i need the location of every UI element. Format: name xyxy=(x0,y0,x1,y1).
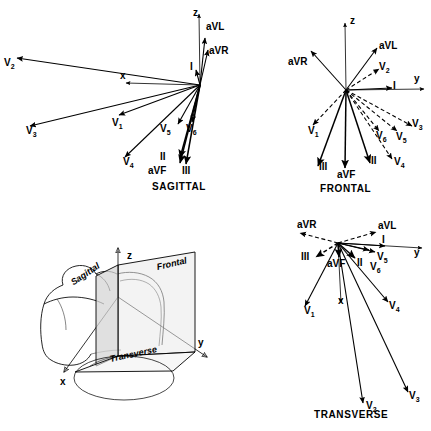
label-text: III xyxy=(319,161,327,172)
label-v1-frontal: V1 xyxy=(308,126,319,138)
label-subscript: 4 xyxy=(401,162,405,169)
label-avr-frontal: aVR xyxy=(288,57,307,67)
label-subscript: 1 xyxy=(119,123,123,130)
label-text: V xyxy=(379,61,386,72)
label-ii-sagittal: II xyxy=(160,152,166,162)
label-v1-sagittal: V1 xyxy=(112,118,123,130)
label-text: V xyxy=(26,125,33,136)
axis-z-sagittal xyxy=(199,14,200,85)
ecg-lead-vector-figure: zxIaVLaVRV2V3V1V4V5V6IIIIIaVFzyIaVLaVRV2… xyxy=(0,0,431,431)
label-text: y xyxy=(198,337,204,348)
label-z-sagittal: z xyxy=(193,8,198,18)
caption-sagittal: SAGITTAL xyxy=(152,182,206,192)
label-x-sagittal: x xyxy=(120,71,126,81)
label-text: V xyxy=(409,390,416,401)
label-v4-transverse: V4 xyxy=(389,301,400,313)
label-avf-transverse: aVF xyxy=(327,259,345,269)
label-text: aVR xyxy=(288,56,307,67)
label-v2-sagittal: V2 xyxy=(4,58,15,70)
vector-v6-frontal xyxy=(346,90,379,131)
label-v3-sagittal: V3 xyxy=(26,126,37,138)
vector-v5-frontal xyxy=(346,90,397,131)
label-v1-transverse: V1 xyxy=(304,306,315,318)
label-x-transverse: x xyxy=(338,296,344,306)
label-subscript: 3 xyxy=(419,124,423,131)
vector-i-sagittal xyxy=(196,70,200,85)
vector-iii-frontal xyxy=(318,90,346,166)
label-subscript: 1 xyxy=(315,131,319,138)
label-v4-sagittal: V4 xyxy=(123,157,134,169)
label-text: aVF xyxy=(337,169,355,180)
label-text: I xyxy=(382,234,385,245)
label-text: aVL xyxy=(378,220,396,231)
label-v6-sagittal: V6 xyxy=(186,124,197,136)
vector-avl-sagittal xyxy=(200,38,205,85)
label-subscript: 6 xyxy=(377,267,381,274)
label-text: V xyxy=(4,57,11,68)
label-text: V xyxy=(389,300,396,311)
label-v3-frontal: V3 xyxy=(412,119,423,131)
label-v4-frontal: V4 xyxy=(394,157,405,169)
vector-avr-frontal xyxy=(311,51,346,90)
label-text: z xyxy=(127,250,132,261)
label-text: III xyxy=(301,251,309,262)
label-subscript: 2 xyxy=(11,63,15,70)
vector-v4-frontal xyxy=(346,90,392,159)
label-v2-frontal: V2 xyxy=(379,62,390,74)
label-text: V xyxy=(304,305,311,316)
label-avf-sagittal: aVF xyxy=(148,166,166,176)
vector-v2-sagittal xyxy=(17,58,200,85)
panel-sagittal-vectors xyxy=(17,14,208,164)
label-v6-frontal: V6 xyxy=(376,131,387,143)
label-subscript: 2 xyxy=(386,67,390,74)
label-x-torso: x xyxy=(60,377,66,387)
label-subscript: 5 xyxy=(167,129,171,136)
label-text: V xyxy=(377,251,384,262)
label-text: V xyxy=(412,118,419,129)
label-text: V xyxy=(123,156,130,167)
vector-avr-sagittal xyxy=(200,50,208,85)
label-text: III xyxy=(182,165,190,176)
label-v6-transverse: V6 xyxy=(370,262,381,274)
label-text: y xyxy=(414,73,420,84)
label-avr-transverse: aVR xyxy=(297,220,316,230)
label-text: V xyxy=(396,131,403,142)
vector-v1-frontal xyxy=(313,90,346,125)
caption-frontal: FRONTAL xyxy=(320,184,371,194)
label-text: II xyxy=(357,257,363,268)
label-avr-sagittal: aVR xyxy=(209,46,228,56)
label-subscript: 5 xyxy=(403,137,407,144)
label-text: y xyxy=(414,247,420,258)
label-subscript: 1 xyxy=(311,311,315,318)
label-text: I xyxy=(393,80,396,91)
label-iii-frontal: III xyxy=(319,162,327,172)
label-text: V xyxy=(376,130,383,141)
figure-vector-artwork xyxy=(0,0,431,431)
label-avl-transverse: aVL xyxy=(378,221,396,231)
label-text: z xyxy=(350,15,355,26)
label-text: x xyxy=(338,295,344,306)
label-subscript: 4 xyxy=(396,306,400,313)
label-subscript: 5 xyxy=(384,257,388,264)
label-i-transverse: I xyxy=(382,235,385,245)
label-text: V xyxy=(394,156,401,167)
label-text: V xyxy=(370,261,377,272)
label-text: aVR xyxy=(297,219,316,230)
vector-v1-sagittal xyxy=(119,85,200,115)
label-y-transverse: y xyxy=(414,248,420,258)
label-text: x xyxy=(120,70,126,81)
label-z-frontal: z xyxy=(350,16,355,26)
label-text: aVF xyxy=(327,258,345,269)
axis-z-frontal xyxy=(345,23,346,90)
label-text: z xyxy=(193,7,198,18)
label-v3-transverse: V3 xyxy=(409,391,420,403)
label-avl-sagittal: aVL xyxy=(206,22,224,32)
label-ii-frontal: II xyxy=(371,156,377,166)
vector-avf-frontal xyxy=(345,90,346,168)
label-avf-frontal: aVF xyxy=(337,170,355,180)
label-text: V xyxy=(308,125,315,136)
vector-v1-transverse xyxy=(305,243,338,306)
label-ii-transverse: II xyxy=(357,258,363,268)
label-text: II xyxy=(160,151,166,162)
vector-avr-transverse xyxy=(300,233,338,243)
